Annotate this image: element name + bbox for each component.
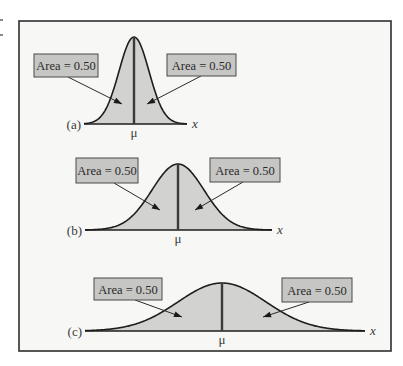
panel-label: (b) bbox=[67, 223, 82, 238]
area-label: Area = 0.50 bbox=[215, 164, 274, 178]
cropped-text-mark bbox=[0, 34, 3, 36]
x-axis-label: x bbox=[276, 222, 283, 237]
panel-label: (c) bbox=[68, 324, 82, 339]
mean-label: μ bbox=[175, 231, 182, 246]
mean-label: μ bbox=[131, 125, 138, 140]
x-axis-label: x bbox=[369, 323, 376, 338]
x-axis-label: x bbox=[191, 116, 198, 131]
area-label: Area = 0.50 bbox=[36, 59, 95, 73]
normal-distributions-figure: (a)xμArea = 0.50Area = 0.50(b)xμArea = 0… bbox=[0, 0, 403, 366]
cropped-text-mark bbox=[0, 19, 3, 21]
area-label: Area = 0.50 bbox=[172, 59, 231, 73]
area-label: Area = 0.50 bbox=[77, 164, 136, 178]
mean-label: μ bbox=[219, 332, 226, 347]
area-label: Area = 0.50 bbox=[98, 283, 157, 297]
area-label: Area = 0.50 bbox=[287, 284, 346, 298]
panel-label: (a) bbox=[67, 117, 81, 132]
